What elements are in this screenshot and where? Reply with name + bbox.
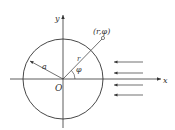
point-label: (r,φ) — [93, 27, 110, 36]
x-axis-label: x — [163, 76, 168, 85]
angle-label: φ — [76, 65, 82, 74]
y-axis-label: y — [54, 14, 60, 23]
r-label: r — [77, 55, 81, 63]
radius-label: a — [42, 62, 47, 71]
angle-arc — [72, 71, 76, 80]
r-line — [63, 39, 102, 79]
polar-coordinate-diagram: y x O a r φ (r,φ) — [0, 0, 175, 130]
diagram-canvas: y x O a r φ (r,φ) — [0, 0, 175, 130]
point-marker — [101, 36, 104, 39]
origin-label: O — [55, 83, 63, 93]
